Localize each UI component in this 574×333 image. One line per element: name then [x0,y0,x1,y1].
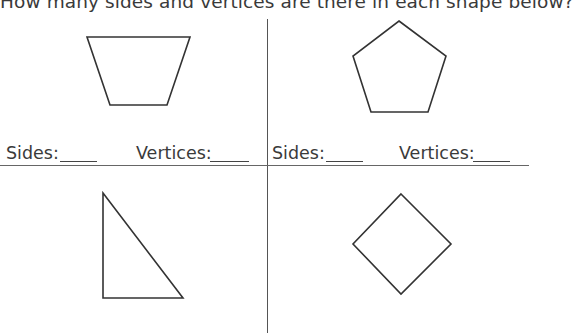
vertices-label-2: Vertices: [399,143,475,163]
trapezoid-shape [87,37,190,105]
diamond-shape [353,194,451,294]
triangle-shape [103,193,183,298]
vertices-answer-blank-1[interactable] [210,161,249,162]
vertices-answer-blank-2[interactable] [473,161,510,162]
pentagon-shape [353,21,446,112]
sides-label-1: Sides: [6,143,59,163]
sides-answer-blank-1[interactable] [60,161,97,162]
vertices-label-1: Vertices: [136,143,212,163]
sides-answer-blank-2[interactable] [326,161,363,162]
sides-label-2: Sides: [272,143,325,163]
